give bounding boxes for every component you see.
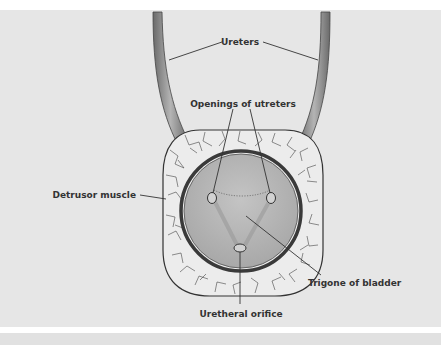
label-ureters: Ureters [221,37,259,47]
label-urethral-orifice: Uretheral orifice [199,309,282,319]
ureter-opening-left [208,193,217,204]
ureter-opening-right [267,193,276,204]
label-trigone: Trigone of bladder [308,278,402,288]
urethral-orifice [234,244,246,252]
bladder-diagram: Ureters Openings of utreters Detrusor mu… [0,0,441,345]
label-detrusor-muscle: Detrusor muscle [52,190,136,200]
ureter-left [153,12,188,145]
label-openings-of-ureters: Openings of utreters [190,99,296,109]
ureter-right [298,12,330,147]
bladder-lumen [181,151,301,271]
